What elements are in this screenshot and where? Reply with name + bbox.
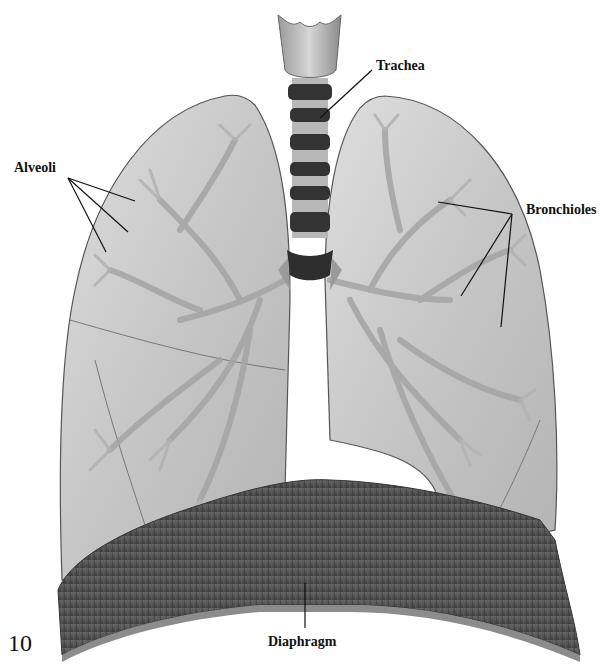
label-bronchioles: Bronchioles [526, 202, 597, 218]
label-diaphragm: Diaphragm [268, 634, 336, 650]
lungs-illustration [0, 0, 612, 667]
label-alveoli: Alveoli [14, 160, 56, 176]
lungs-diagram: Trachea Alveoli Bronchioles Diaphragm 10 [0, 0, 612, 667]
label-trachea: Trachea [376, 58, 425, 74]
figure-number: 10 [8, 630, 32, 657]
right-lung [325, 96, 557, 548]
